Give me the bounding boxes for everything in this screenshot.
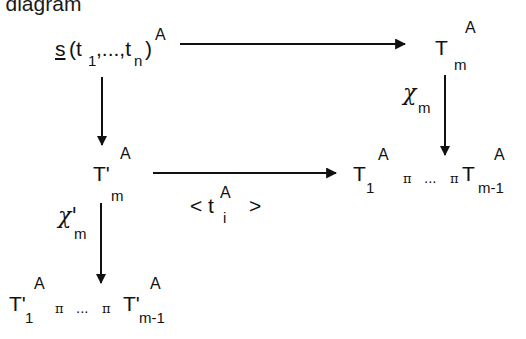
label-tuple-sup: A: [220, 185, 231, 201]
node-bottom-left-first-sub: 1: [25, 310, 33, 325]
label-tuple-close: >: [249, 195, 261, 216]
node-bottom-left-first-sup: A: [34, 276, 45, 292]
node-bottom-left-ellipsis: ...: [76, 300, 89, 315]
node-bottom-left-first-base: T': [9, 293, 26, 314]
node-bottom-left-last-sub: m-1: [139, 310, 165, 325]
node-mid-right-last-sub: m-1: [478, 180, 504, 195]
node-top-right-sub: m: [454, 57, 467, 72]
label-chi-m-sub: m: [418, 100, 431, 115]
node-top-left-sup: A: [155, 27, 166, 43]
node-top-left-subn: n: [134, 53, 142, 68]
node-mid-right-first-sub: 1: [366, 180, 374, 195]
node-mid-left-sub: m: [111, 188, 124, 203]
label-chi-m-base: χ: [403, 82, 416, 104]
node-mid-right-last-sup: A: [494, 147, 505, 163]
node-top-left-close: ): [145, 38, 152, 59]
label-tuple-open: < t: [190, 195, 214, 216]
node-mid-right-first-base: T: [353, 163, 366, 184]
node-mid-left-sup: A: [120, 146, 131, 162]
label-tuple-sub: i: [223, 210, 226, 225]
node-bottom-left-last-sup: A: [150, 276, 161, 292]
label-chi-prime-m-base: χ': [58, 205, 77, 227]
node-top-left-symbol: s: [55, 38, 66, 59]
node-mid-right-first-sup: A: [378, 147, 389, 163]
node-top-left-open: (t: [69, 38, 82, 59]
node-mid-right-last-base: T: [462, 163, 475, 184]
node-bottom-left-last-base: T': [123, 293, 140, 314]
node-top-right-sup: A: [465, 20, 476, 36]
node-mid-right-op2: π: [450, 172, 459, 185]
node-top-left-mid: ,...,t: [96, 38, 131, 59]
node-bottom-left-op2: π: [102, 302, 111, 315]
node-bottom-left-op1: π: [55, 302, 64, 315]
node-mid-left-base: T': [93, 163, 110, 184]
label-chi-prime-m-sub: m: [74, 226, 87, 241]
node-top-right-base: T: [435, 37, 448, 58]
node-mid-right-op1: π: [403, 172, 412, 185]
node-mid-right-ellipsis: ...: [424, 170, 437, 185]
